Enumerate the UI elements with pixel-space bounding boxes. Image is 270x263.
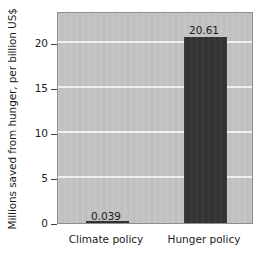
x-tick-label: Climate policy [51,233,161,246]
bar-value-label: 20.61 [169,24,239,36]
bar-value-label: 0.039 [71,210,141,222]
plot-area [57,12,253,224]
y-tick-label: 10 [18,128,48,139]
y-tick-label: 5 [18,173,48,184]
y-tick-mark [51,224,57,225]
y-tick-label: 20 [18,38,48,49]
y-tick-label: 15 [18,83,48,94]
bar-chart-figure: Millions saved from hunger, per billion … [0,0,270,263]
x-tick-label: Hunger policy [149,233,259,246]
y-tick-label: 0 [18,218,48,229]
bar [184,37,227,223]
